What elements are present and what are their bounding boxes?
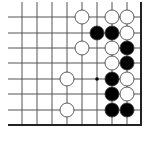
white-stone[interactable] [75, 41, 89, 55]
point-marker-icon [95, 77, 99, 81]
black-stone[interactable] [90, 26, 104, 40]
white-stone[interactable] [120, 87, 134, 101]
white-stone[interactable] [105, 10, 119, 24]
go-board [0, 0, 151, 144]
white-stone[interactable] [120, 26, 134, 40]
black-stone[interactable] [105, 103, 119, 117]
white-stone[interactable] [60, 103, 74, 117]
white-stone[interactable] [75, 10, 89, 24]
white-stone[interactable] [120, 72, 134, 86]
black-stone[interactable] [120, 103, 134, 117]
white-stone[interactable] [105, 56, 119, 70]
black-stone[interactable] [105, 87, 119, 101]
white-stone[interactable] [105, 41, 119, 55]
white-stone[interactable] [60, 72, 74, 86]
white-stone[interactable] [120, 10, 134, 24]
black-stone[interactable] [105, 72, 119, 86]
board-markers [95, 77, 99, 81]
black-stone[interactable] [105, 26, 119, 40]
black-stone[interactable] [120, 41, 134, 55]
black-stone[interactable] [120, 56, 134, 70]
